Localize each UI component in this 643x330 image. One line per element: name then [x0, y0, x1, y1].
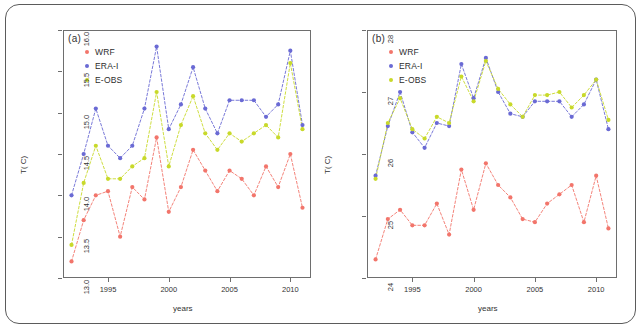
data-point-wrf [130, 185, 134, 189]
data-point-e-obs [215, 148, 219, 152]
data-point-e-obs [508, 102, 512, 106]
data-point-wrf [423, 223, 427, 227]
data-point-e-obs [155, 90, 159, 94]
data-point-wrf [472, 208, 476, 212]
data-point-era-i [82, 152, 86, 156]
data-point-e-obs [423, 136, 427, 140]
data-point-e-obs [472, 99, 476, 103]
data-point-e-obs [240, 140, 244, 144]
data-point-wrf [215, 189, 219, 193]
data-point-e-obs [533, 93, 537, 97]
data-point-e-obs [582, 93, 586, 97]
data-point-wrf [582, 220, 586, 224]
data-point-wrf [570, 183, 574, 187]
data-point-e-obs [191, 94, 195, 98]
data-point-wrf [459, 167, 463, 171]
data-point-e-obs [484, 59, 488, 63]
data-point-era-i [557, 99, 561, 103]
data-point-wrf [69, 259, 73, 263]
data-point-wrf [94, 193, 98, 197]
series-layer-a [0, 0, 330, 330]
data-point-era-i [508, 112, 512, 116]
data-point-wrf [82, 218, 86, 222]
data-point-e-obs [496, 87, 500, 91]
data-point-e-obs [69, 243, 73, 247]
data-point-era-i [570, 115, 574, 119]
data-point-era-i [240, 98, 244, 102]
data-point-wrf [106, 189, 110, 193]
data-point-wrf [155, 135, 159, 139]
data-point-e-obs [276, 135, 280, 139]
data-point-wrf [167, 210, 171, 214]
data-point-e-obs [94, 144, 98, 148]
data-point-wrf [142, 197, 146, 201]
data-point-e-obs [167, 164, 171, 168]
data-point-e-obs [570, 105, 574, 109]
data-point-e-obs [288, 61, 292, 65]
data-point-era-i [264, 115, 268, 119]
data-point-e-obs [264, 123, 268, 127]
data-point-wrf [398, 208, 402, 212]
data-point-era-i [276, 102, 280, 106]
series-line-e-obs [376, 61, 609, 179]
data-point-e-obs [435, 115, 439, 119]
data-point-e-obs [459, 74, 463, 78]
series-line-wrf [72, 137, 303, 261]
data-point-wrf [300, 206, 304, 210]
data-point-wrf [484, 161, 488, 165]
data-point-era-i [545, 99, 549, 103]
data-point-wrf [545, 202, 549, 206]
data-point-era-i [142, 106, 146, 110]
data-point-wrf [288, 152, 292, 156]
data-point-e-obs [118, 177, 122, 181]
data-point-e-obs [252, 131, 256, 135]
data-point-e-obs [130, 164, 134, 168]
data-point-era-i [582, 102, 586, 106]
data-point-e-obs [82, 181, 86, 185]
data-point-era-i [130, 144, 134, 148]
data-point-e-obs [606, 118, 610, 122]
data-point-wrf [557, 192, 561, 196]
series-line-e-obs [72, 63, 303, 245]
data-point-wrf [594, 174, 598, 178]
data-point-e-obs [203, 131, 207, 135]
data-point-wrf [203, 168, 207, 172]
data-point-wrf [179, 185, 183, 189]
data-point-wrf [496, 183, 500, 187]
data-point-e-obs [106, 177, 110, 181]
data-point-e-obs [179, 123, 183, 127]
data-point-wrf [264, 164, 268, 168]
data-point-era-i [167, 127, 171, 131]
data-point-e-obs [521, 115, 525, 119]
data-point-era-i [288, 49, 292, 53]
data-point-era-i [118, 156, 122, 160]
data-point-e-obs [300, 127, 304, 131]
data-point-wrf [435, 202, 439, 206]
data-point-era-i [459, 62, 463, 66]
data-point-e-obs [447, 121, 451, 125]
data-point-e-obs [373, 177, 377, 181]
data-point-wrf [191, 148, 195, 152]
data-point-wrf [508, 195, 512, 199]
data-point-era-i [300, 123, 304, 127]
data-point-e-obs [227, 131, 231, 135]
series-line-wrf [376, 163, 609, 259]
data-point-era-i [106, 144, 110, 148]
data-point-era-i [606, 127, 610, 131]
data-point-wrf [227, 168, 231, 172]
data-point-era-i [191, 65, 195, 69]
data-point-era-i [69, 193, 73, 197]
data-point-wrf [118, 235, 122, 239]
data-point-era-i [398, 90, 402, 94]
data-point-e-obs [594, 78, 598, 82]
data-point-wrf [533, 220, 537, 224]
data-point-e-obs [410, 127, 414, 131]
data-point-wrf [276, 185, 280, 189]
data-point-wrf [410, 223, 414, 227]
data-point-e-obs [398, 96, 402, 100]
data-point-era-i [94, 106, 98, 110]
chart-panel-b: (b)WRFERA-IE-OBS242526272819952000200520… [320, 0, 643, 330]
data-point-wrf [240, 177, 244, 181]
data-point-era-i [252, 98, 256, 102]
data-point-e-obs [545, 93, 549, 97]
